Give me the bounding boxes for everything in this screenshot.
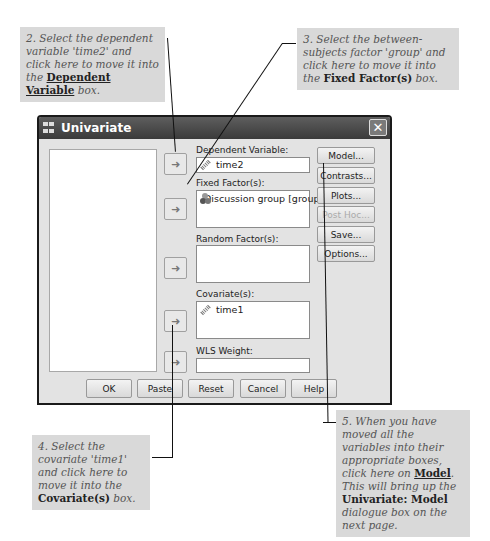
univariate-dialog: Univariate ✕ ➜ ➜ ➜ ➜ ➜ Dependent Variabl…	[37, 115, 392, 405]
item-label: time2	[216, 159, 244, 170]
cancel-button[interactable]: Cancel	[240, 379, 286, 398]
callout-step-2: 2. Select the dependent variable 'time2'…	[20, 27, 165, 102]
close-button[interactable]: ✕	[369, 119, 387, 136]
spss-app-icon	[43, 122, 56, 134]
fixed-factors-list[interactable]: Discussion group [group]	[196, 190, 310, 228]
fixed-factors-label: Fixed Factor(s):	[196, 178, 264, 188]
callout-text: box.	[74, 84, 100, 96]
list-item[interactable]: time2	[197, 158, 309, 172]
callout-step-4: 4. Select the covariate 'time1' and clic…	[32, 435, 150, 510]
list-item[interactable]: Discussion group [group]	[197, 191, 309, 206]
leader-line	[172, 325, 173, 458]
callout-bold: Fixed Factor(s)	[324, 72, 413, 84]
source-variable-list[interactable]	[49, 149, 157, 372]
list-item[interactable]: time1	[197, 302, 309, 317]
save-button[interactable]: Save...	[317, 226, 375, 243]
leader-line	[323, 422, 336, 423]
callout-step-5: 5. When you have moved all the variables…	[336, 410, 470, 537]
random-factors-list[interactable]	[196, 245, 310, 283]
move-to-random-factors-button[interactable]: ➜	[164, 257, 187, 279]
dependent-variable-field[interactable]: time2	[196, 157, 310, 173]
callout-step-3: 3. Select the between-subjects factor 'g…	[297, 28, 459, 90]
leader-line	[152, 457, 173, 458]
contrasts-button[interactable]: Contrasts...	[317, 167, 375, 184]
ok-button[interactable]: OK	[86, 379, 132, 398]
callout-bold: Univariate: Model	[342, 493, 448, 505]
arrow-right-icon: ➜	[171, 158, 180, 171]
close-icon: ✕	[373, 120, 384, 135]
wls-weight-field[interactable]	[196, 358, 310, 373]
move-to-fixed-factors-button[interactable]: ➜	[164, 198, 187, 220]
callout-text: box.	[110, 492, 136, 504]
title-bar[interactable]: Univariate ✕	[39, 117, 390, 139]
move-to-wls-weight-button[interactable]: ➜	[164, 351, 187, 373]
dialog-title: Univariate	[61, 121, 131, 135]
reset-button[interactable]: Reset	[188, 379, 234, 398]
callout-bold: Model	[414, 467, 451, 479]
paste-button[interactable]: Paste	[137, 379, 183, 398]
wls-weight-label: WLS Weight:	[196, 346, 253, 356]
plots-button[interactable]: Plots...	[317, 187, 375, 204]
help-button[interactable]: Help	[291, 379, 337, 398]
scale-variable-icon	[200, 304, 211, 315]
covariates-label: Covariate(s):	[196, 289, 254, 299]
callout-bold: Covariate(s)	[38, 492, 110, 504]
item-label: Discussion group [group]	[204, 193, 323, 204]
model-button[interactable]: Model...	[317, 147, 375, 164]
callout-text: box.	[412, 72, 438, 84]
covariates-list[interactable]: time1	[196, 301, 310, 339]
move-to-dependent-button[interactable]: ➜	[164, 153, 187, 175]
arrow-right-icon: ➜	[171, 203, 180, 216]
leader-line	[282, 43, 296, 44]
move-to-covariates-button[interactable]: ➜	[164, 310, 187, 332]
arrow-right-icon: ➜	[171, 262, 180, 275]
callout-text: 4. Select the covariate 'time1' and clic…	[38, 440, 127, 491]
post-hoc-button[interactable]: Post Hoc...	[317, 206, 375, 223]
random-factors-label: Random Factor(s):	[196, 234, 278, 244]
item-label: time1	[216, 304, 244, 315]
callout-text: dialogue box on the next page.	[342, 506, 447, 531]
